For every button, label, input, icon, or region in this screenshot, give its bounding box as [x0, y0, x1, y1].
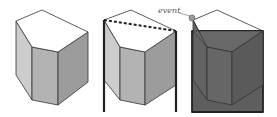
- shaded-front-face: [207, 47, 232, 105]
- event-point-icon: [189, 15, 195, 21]
- event-leader-line: [179, 13, 190, 16]
- diagram-canvas: [0, 0, 277, 117]
- front-face: [32, 47, 58, 105]
- front-face: [120, 47, 145, 105]
- prism-plain: [16, 10, 88, 105]
- prism-shaded: [189, 10, 263, 112]
- event-label: event: [158, 6, 180, 15]
- prism-with-walls: [104, 10, 176, 112]
